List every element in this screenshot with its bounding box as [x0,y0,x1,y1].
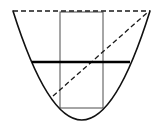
geometry-figure [0,0,157,131]
figure-canvas [0,0,157,131]
figure-background [0,0,157,131]
